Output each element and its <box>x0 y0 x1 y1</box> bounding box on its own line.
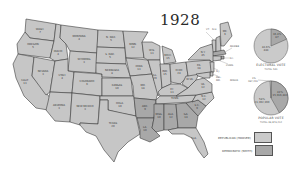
svg-text:444: 444 <box>264 49 269 52</box>
svg-text:VA.12: VA.12 <box>201 83 205 89</box>
state-r-i <box>221 56 224 59</box>
svg-text:N.J.: N.J. <box>216 70 220 73</box>
svg-text:N.H.: N.H. <box>212 28 217 31</box>
svg-text:PA.38: PA.38 <box>197 64 201 70</box>
state-vt <box>212 40 216 52</box>
electoral-vote-caption: ELECTORAL VOTE <box>248 63 294 67</box>
legend-label-republican: REPUBLICAN (HOOVER) <box>218 136 251 140</box>
state-del <box>210 72 213 76</box>
svg-text:W.VA.: W.VA. <box>186 78 193 81</box>
us-electoral-map: WASH.7 OREGON5 CALIF.13 NEVADA3 IDAHO4 M… <box>0 0 296 169</box>
svg-text:TENN.: TENN. <box>171 97 179 100</box>
state-me <box>220 22 232 46</box>
state-fla <box>168 128 208 158</box>
svg-text:VT.: VT. <box>206 28 210 31</box>
legend-label-democratic: DEMOCRATIC (SMITH) <box>222 149 252 153</box>
state-ind <box>160 64 171 88</box>
svg-text:CONN.: CONN. <box>226 64 234 67</box>
svg-text:LA.10: LA.10 <box>143 126 147 132</box>
svg-text:18: 18 <box>236 45 240 48</box>
svg-text:267,420: 267,420 <box>248 80 258 83</box>
svg-text:15,016,443: 15,016,443 <box>273 94 288 97</box>
svg-text:R.I.: R.I. <box>230 57 234 60</box>
popular-vote-pie: 58% 21,392,190 41% 15,016,443 1% MINOR 2… <box>230 77 288 115</box>
state-n-j <box>210 62 214 72</box>
legend-republican: REPUBLICAN (HOOVER) <box>218 132 272 143</box>
state-conn <box>213 56 221 61</box>
popular-vote-total: TOTAL 36,879,414 <box>244 121 296 124</box>
svg-text:87: 87 <box>275 36 279 39</box>
electoral-vote-pie: 83.6% 444 16.4% 87 <box>254 29 288 63</box>
popular-vote-caption: POPULAR VOTE <box>248 116 294 120</box>
state-n-h <box>216 36 221 52</box>
electoral-vote-total: TOTAL 531 <box>248 68 294 71</box>
svg-text:KY.13: KY.13 <box>170 88 174 94</box>
svg-text:MD.: MD. <box>216 79 221 82</box>
svg-text:21,392,190: 21,392,190 <box>255 101 270 104</box>
svg-text:MINOR: MINOR <box>230 79 238 82</box>
legend-democratic: DEMOCRATIC (SMITH) <box>222 145 273 156</box>
legend-swatch-democratic <box>255 145 273 156</box>
svg-text:FLA.: FLA. <box>191 137 197 140</box>
legend-swatch-republican <box>254 132 272 143</box>
